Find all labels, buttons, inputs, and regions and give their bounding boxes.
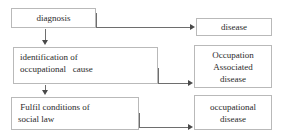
node-identification-line-2: occupational cause	[20, 63, 157, 75]
node-occupation-associated-disease-line-2: Associated	[213, 61, 253, 73]
flowchart-diagram: diagnosis identification of occupational…	[0, 0, 285, 135]
arrowhead-fulfil-occdisease	[188, 124, 193, 130]
connector-diagnosis-disease-vertical	[96, 13, 97, 27]
node-identification: identification of occupational cause	[13, 47, 158, 84]
node-identification-line-1: identification of	[20, 51, 157, 63]
node-occupational-disease-line-1: occupational	[210, 101, 256, 113]
node-occupation-associated-disease-line-3: disease	[220, 73, 246, 85]
connector-fulfil-occdisease-vertical	[139, 113, 140, 127]
connector-identification-occassoc-vertical	[158, 68, 159, 83]
node-occupation-associated-disease: Occupation Associated disease	[194, 45, 272, 88]
node-disease: disease	[196, 18, 272, 36]
node-occupational-disease: occupational disease	[194, 95, 272, 130]
node-fulfil-conditions: Fulfil conditions of social law	[11, 97, 139, 130]
connector-diagnosis-disease-horizontal	[96, 27, 190, 28]
node-fulfil-conditions-line-1: Fulfil conditions of	[18, 101, 138, 113]
node-diagnosis: diagnosis	[11, 8, 96, 28]
node-occupational-disease-line-2: disease	[220, 113, 246, 125]
node-disease-line-1: disease	[221, 21, 247, 33]
arrowhead-identification-fulfil	[42, 90, 48, 95]
node-fulfil-conditions-line-2: social law	[18, 113, 138, 125]
arrowhead-diagnosis-disease	[190, 24, 195, 30]
node-diagnosis-line-1: diagnosis	[36, 12, 70, 24]
connector-fulfil-occdisease-horizontal	[139, 127, 188, 128]
arrowhead-identification-occassoc	[188, 80, 193, 86]
connector-identification-occassoc-horizontal	[158, 83, 188, 84]
node-occupation-associated-disease-line-1: Occupation	[212, 49, 253, 61]
arrowhead-diagnosis-identification	[42, 40, 48, 45]
